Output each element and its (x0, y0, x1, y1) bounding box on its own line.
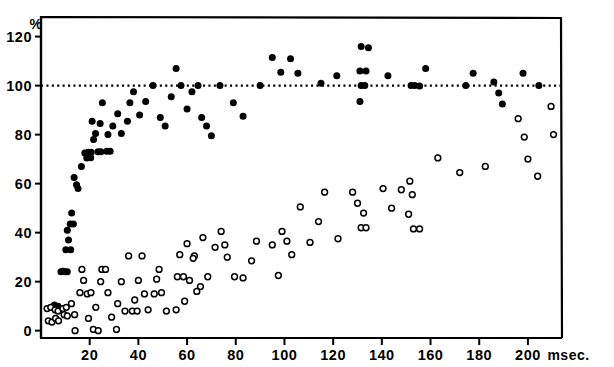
data-point-open (56, 318, 62, 324)
data-point-filled (107, 148, 114, 155)
data-point-filled (535, 82, 542, 89)
data-point-filled (99, 99, 106, 106)
data-point-open (411, 226, 417, 232)
data-point-open (69, 301, 75, 307)
data-point-filled (365, 44, 372, 51)
data-point-filled (257, 82, 264, 89)
x-tick-label-100: 100 (272, 347, 298, 363)
data-point-open (407, 178, 413, 184)
data-point-open (184, 241, 190, 247)
y-tick-label-100: 100 (6, 78, 32, 94)
data-point-open (284, 238, 290, 244)
data-point-filled (422, 65, 429, 72)
data-point-open (551, 132, 557, 138)
data-point-open (194, 289, 200, 295)
data-point-open (93, 304, 99, 310)
data-point-open (156, 266, 162, 272)
data-point-filled (462, 82, 469, 89)
data-point-open (361, 210, 367, 216)
data-point-filled (89, 118, 96, 125)
data-point-filled (177, 82, 184, 89)
data-point-open (525, 156, 531, 162)
y-tick-label-20: 20 (15, 274, 32, 290)
data-point-filled (499, 100, 506, 107)
data-point-filled (64, 227, 71, 234)
data-point-filled (356, 98, 363, 105)
data-point-open (98, 279, 104, 285)
data-point-open (435, 155, 441, 161)
data-point-filled (142, 98, 149, 105)
data-point-filled (198, 114, 205, 121)
data-point-open (205, 274, 211, 280)
data-point-open (126, 253, 132, 259)
data-point-open (139, 253, 145, 259)
data-point-open (109, 314, 115, 320)
data-point-filled (490, 78, 497, 85)
data-point-filled (416, 83, 423, 90)
data-point-open (249, 258, 255, 264)
data-point-open (200, 235, 206, 241)
data-point-filled (188, 88, 195, 95)
x-tick-label-80: 80 (227, 347, 244, 363)
data-point-filled (287, 55, 294, 62)
data-point-open (355, 200, 361, 206)
data-point-filled (333, 72, 340, 79)
data-point-open (174, 274, 180, 280)
data-point-filled (470, 70, 477, 77)
data-point-open (515, 116, 521, 122)
data-point-open (177, 252, 183, 258)
data-point-filled (317, 80, 324, 87)
data-point-filled (109, 123, 116, 130)
data-point-open (212, 244, 218, 250)
data-point-open (279, 229, 285, 235)
plot-canvas: 0204060801001202040608010012014016018020… (0, 0, 614, 367)
data-point-open (154, 276, 160, 282)
data-point-open (103, 266, 109, 272)
data-point-open (132, 297, 138, 303)
data-point-filled (65, 236, 72, 243)
data-point-open (145, 307, 151, 313)
data-point-filled (269, 54, 276, 61)
y-tick-label-40: 40 (15, 225, 32, 241)
data-point-open (398, 187, 404, 193)
data-point-filled (358, 43, 365, 50)
x-tick-label-40: 40 (130, 347, 147, 363)
data-point-open (163, 308, 169, 314)
data-point-open (159, 290, 165, 296)
x-tick-label-20: 20 (81, 347, 98, 363)
plot-frame (41, 17, 562, 338)
data-point-open (190, 255, 196, 261)
data-point-filled (64, 268, 71, 275)
data-point-open (316, 219, 322, 225)
data-point-open (322, 189, 328, 195)
data-point-filled (162, 123, 169, 130)
data-point-open (222, 242, 228, 248)
data-point-filled (384, 72, 391, 79)
data-point-open (254, 238, 260, 244)
y-tick-label-0: 0 (23, 323, 32, 339)
data-point-open (64, 313, 70, 319)
data-point-filled (149, 82, 156, 89)
y-tick-label-120: 120 (6, 29, 32, 45)
data-point-filled (68, 210, 75, 217)
data-point-filled (90, 136, 97, 143)
data-point-open (417, 226, 423, 232)
data-point-open (409, 192, 415, 198)
data-point-filled (495, 89, 502, 96)
data-point-filled (230, 99, 237, 106)
data-point-open (457, 170, 463, 176)
data-point-open (240, 275, 246, 281)
data-point-open (181, 274, 187, 280)
data-point-filled (124, 118, 131, 125)
data-point-open (114, 327, 120, 333)
data-point-open (142, 291, 148, 297)
data-point-open (88, 290, 94, 296)
data-point-filled (126, 99, 133, 106)
data-point-open (72, 328, 78, 334)
data-point-filled (75, 185, 82, 192)
data-point-filled (92, 130, 99, 137)
data-point-filled (130, 88, 137, 95)
x-tick-label-200: 200 (515, 347, 541, 363)
data-point-open (151, 291, 157, 297)
data-point-filled (363, 67, 370, 74)
